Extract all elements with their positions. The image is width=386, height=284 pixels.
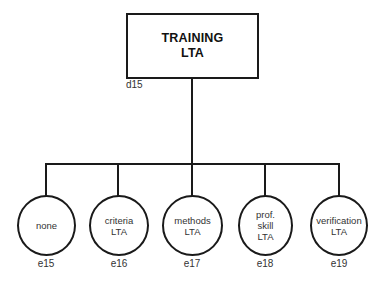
child-node-id: e15	[26, 258, 66, 269]
child-node-e15: none	[17, 195, 76, 256]
child-node-e19: verification LTA	[310, 195, 368, 256]
child-node-id: e19	[319, 258, 359, 269]
child-label: LTA	[331, 226, 347, 237]
child-node-e18: prof. skill LTA	[238, 195, 293, 256]
child-node-id: e18	[245, 258, 285, 269]
root-title-line-1: TRAINING	[161, 31, 223, 46]
root-node-id: d15	[126, 79, 143, 90]
child-node-e16: criteria LTA	[89, 195, 149, 256]
child-label: none	[36, 220, 57, 231]
root-node-box: TRAINING LTA	[126, 13, 259, 79]
child-node-id: e16	[99, 258, 139, 269]
child-label: criteria	[105, 215, 134, 226]
child-label: prof.	[256, 209, 275, 220]
child-label: methods	[174, 215, 210, 226]
child-label: LTA	[184, 226, 200, 237]
child-node-e17: methods LTA	[162, 195, 223, 256]
tree-diagram: TRAINING LTA d15 none e15 criteria LTA e…	[0, 0, 386, 284]
root-title-line-2: LTA	[181, 46, 204, 61]
child-label: verification	[316, 215, 361, 226]
child-label: LTA	[257, 231, 273, 242]
child-node-id: e17	[172, 258, 212, 269]
child-label: LTA	[111, 226, 127, 237]
child-label: skill	[258, 220, 274, 231]
